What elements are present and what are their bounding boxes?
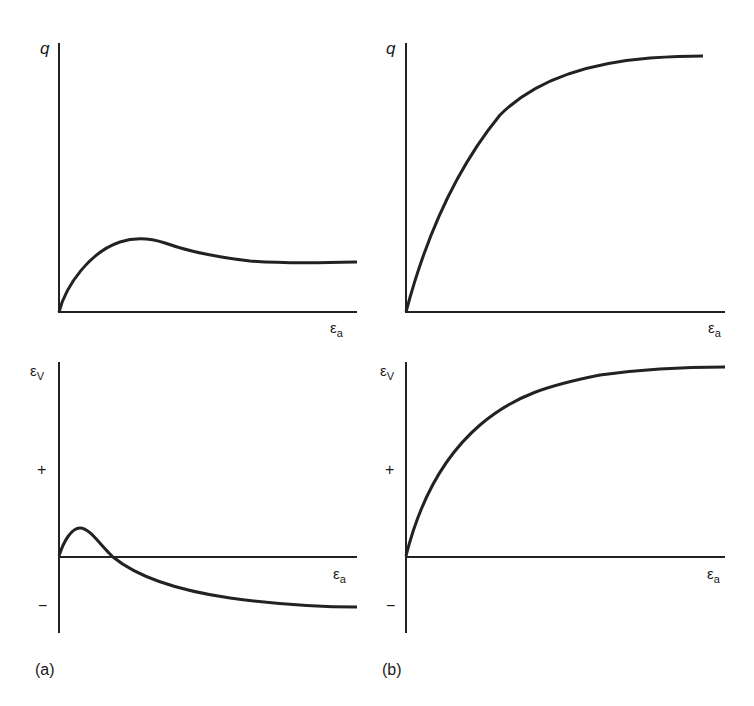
b-bottom-x-main: ε (707, 565, 714, 582)
b-top-x-main: ε (708, 319, 715, 336)
a-top-x-sub: a (337, 327, 343, 339)
b-bottom-x-label: εa (707, 566, 720, 581)
b-bottom-x-sub: a (714, 573, 720, 585)
b-top-x-sub: a (715, 327, 721, 339)
b-bottom-curve (406, 367, 725, 556)
b-top-y-label: q (386, 40, 395, 57)
a-bottom-y-label: εV (30, 363, 44, 378)
b-bottom-plus-tick: + (385, 462, 394, 478)
a-bottom-x-label: εa (333, 566, 346, 581)
b-bottom-y-label: εV (380, 363, 394, 378)
a-bottom-x-main: ε (333, 565, 340, 582)
a-bottom-plus-tick: + (37, 462, 46, 478)
b-bottom-y-main: ε (380, 362, 387, 379)
a-top-x-label: εa (330, 320, 343, 335)
b-top-x-label: εa (708, 320, 721, 335)
panel-b-caption: (b) (382, 662, 402, 678)
a-bottom-curve (59, 528, 357, 607)
a-top-y-label: q (40, 40, 49, 57)
a-bottom-y-sub: V (37, 370, 44, 382)
b-bottom-y-sub: V (387, 370, 394, 382)
b-bottom-minus-tick: − (386, 598, 395, 614)
panel-a-caption: (a) (35, 662, 55, 678)
b-top-curve (406, 56, 703, 312)
a-bottom-x-sub: a (340, 573, 346, 585)
a-bottom-y-main: ε (30, 362, 37, 379)
a-bottom-minus-tick: − (38, 598, 47, 614)
a-top-curve (59, 239, 357, 312)
figure-canvas (0, 0, 754, 706)
a-top-x-main: ε (330, 319, 337, 336)
